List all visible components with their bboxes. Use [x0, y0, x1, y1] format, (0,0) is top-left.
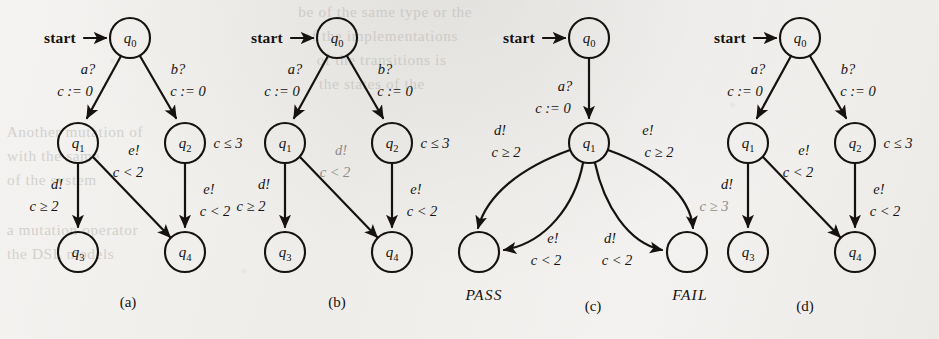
panel-d-q0-label: q0 — [794, 30, 807, 49]
panel-b-edge-a-action: a? — [288, 61, 303, 78]
panel-a-q4-label: q4 — [179, 244, 192, 263]
panel-d-q2-label: q2 — [849, 135, 862, 154]
panel-a-edge-d-action: d! — [51, 176, 63, 193]
panel-d-edge-a-action: a? — [751, 61, 766, 78]
panel-b-edge-b-update: c := 0 — [377, 83, 413, 100]
panel-a-edge-diag-action: e! — [128, 142, 139, 159]
panel-b-edge-diag-guard: c < 2 — [320, 164, 351, 181]
panel-b-edge-a-update: c := 0 — [264, 83, 300, 100]
panel-d-edge-b-action: b? — [841, 61, 856, 78]
panel-d-start-label: start — [714, 29, 746, 47]
panel-c-edge-q1-pass-inner — [504, 163, 583, 250]
panel-d-q1-label: q1 — [742, 135, 755, 154]
panel-b-caption: (b) — [328, 294, 346, 311]
panel-d-edge-right-action: e! — [873, 181, 884, 198]
panel-c-q1-label: q1 — [583, 135, 596, 154]
panel-c-edge-pass-inner-guard: c < 2 — [531, 252, 562, 269]
panel-d-edge-d-guard: c ≥ 3 — [700, 198, 729, 215]
panel-a-edge-a-action: a? — [81, 61, 96, 78]
panel-a-edge-b-update: c := 0 — [170, 83, 206, 100]
panel-d-edge-a-update: c := 0 — [727, 83, 763, 100]
panel-d-caption: (d) — [796, 298, 814, 315]
panel-d-q4-label: q4 — [849, 244, 862, 263]
panel-b-edge-diag-action: d! — [335, 142, 347, 159]
panel-b-edge-right-action: e! — [410, 181, 421, 198]
panel-c-node-pass — [459, 232, 499, 272]
panel-c-edge-fail-outer-guard: c ≥ 2 — [645, 144, 674, 161]
panel-b-edge-d-action: d! — [258, 176, 270, 193]
panel-d-edge-d-action: d! — [721, 176, 733, 193]
panel-a-q0-label: q0 — [124, 30, 137, 49]
panel-b-start-label: start — [251, 29, 283, 47]
panel-a-q2-label: q2 — [179, 135, 192, 154]
panel-b-q4-label: q4 — [386, 244, 399, 263]
panel-b-invariant-q2: c ≤ 3 — [421, 135, 450, 152]
panel-a-edge-a-update: c := 0 — [57, 83, 93, 100]
panel-c-edge-q1-fail-outer — [608, 150, 693, 228]
panel-c-edge-fail-inner-action: d! — [604, 230, 616, 247]
panel-c-edge-fail-inner-guard: c < 2 — [602, 252, 633, 269]
panel-a-edge-right-guard: c < 2 — [200, 203, 231, 220]
panel-d-edge-diag-guard: c < 2 — [783, 164, 814, 181]
panel-d-invariant-q2: c ≤ 3 — [884, 135, 913, 152]
panel-c-start-label: start — [503, 29, 535, 47]
panel-b-edge-d-guard: c ≥ 2 — [237, 198, 266, 215]
panel-c-edge-a-update: c := 0 — [535, 100, 571, 117]
panel-c-q0-label: q0 — [583, 30, 596, 49]
panel-a-q1-label: q1 — [72, 135, 85, 154]
panel-b-edge-b-action: b? — [378, 61, 393, 78]
panel-d-edge-right-guard: c < 2 — [870, 203, 901, 220]
panel-c-caption: (c) — [585, 298, 602, 315]
figure-board: start q0 q1 q2 q3 q4 a? c := 0 b? c := 0… — [0, 0, 939, 339]
panel-b-q0-label: q0 — [331, 30, 344, 49]
panel-b-edge-right-guard: c < 2 — [407, 203, 438, 220]
panel-c-edge-pass-outer-action: d! — [494, 122, 506, 139]
panel-b-q2-label: q2 — [386, 135, 399, 154]
panel-a-edge-diag-guard: c < 2 — [113, 164, 144, 181]
panel-a-edge-b-action: b? — [171, 61, 186, 78]
panel-a-edge-d-guard: c ≥ 2 — [30, 198, 59, 215]
panel-c-edge-fail-outer-action: e! — [642, 122, 653, 139]
panel-c-edge-q1-pass-outer — [478, 150, 570, 228]
panel-a-invariant-q2: c ≤ 3 — [214, 135, 243, 152]
panel-d-q3-label: q3 — [742, 244, 755, 263]
panel-c-node-fail — [667, 232, 707, 272]
panel-c-fail-label: FAIL — [672, 286, 708, 304]
panel-a-caption: (a) — [120, 294, 137, 311]
panel-b-q1-label: q1 — [279, 135, 292, 154]
panel-b-q3-label: q3 — [279, 244, 292, 263]
panel-d-edge-diag-action: e! — [798, 142, 809, 159]
panel-a-edge-right-action: e! — [203, 181, 214, 198]
panel-c-pass-label: PASS — [465, 286, 502, 304]
panel-c-edge-pass-inner-action: e! — [547, 230, 558, 247]
panel-a-start-label: start — [44, 29, 76, 47]
panel-c-edge-pass-outer-guard: c ≥ 2 — [492, 144, 521, 161]
panel-d-edge-b-update: c := 0 — [840, 83, 876, 100]
panel-a-q3-label: q3 — [72, 244, 85, 263]
panel-c-edge-a-action: a? — [558, 78, 573, 95]
